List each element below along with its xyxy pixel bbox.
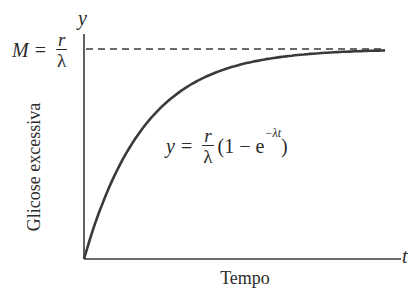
y-axis-title: Glicose excessiva [24,103,45,231]
x-axis-symbol: t [402,245,408,268]
r-over-lambda: r λ [56,30,67,70]
equals-sign: = [35,39,46,62]
formula-paren-open: (1 − e−λt) [218,134,288,158]
asymptote-label: M = r λ [12,30,71,70]
x-axis-title: Tempo [220,268,270,289]
formula-equals: = [181,135,192,158]
formula-y: y [166,135,175,158]
y-axis-symbol: y [78,7,87,30]
formula-fraction: r λ [202,126,213,166]
curve-equation: y = r λ (1 − e−λt) [166,126,288,166]
m-symbol: M [12,39,29,62]
formula-exponent: −λt [264,126,281,140]
